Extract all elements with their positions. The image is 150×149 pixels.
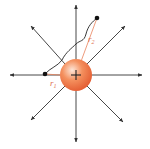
field-line-lower-right-arrow-icon bbox=[87, 86, 123, 122]
point-2-dot bbox=[95, 16, 100, 21]
point-1-dot bbox=[43, 72, 48, 77]
diagram: r1 r2 bbox=[0, 0, 150, 149]
label-r2: r2 bbox=[88, 34, 95, 45]
field-diagram: r1 r2 bbox=[0, 0, 150, 149]
field-line-lower-left-arrow-icon bbox=[31, 86, 65, 120]
field-line-upper-left-arrow-icon bbox=[31, 26, 65, 64]
label-r1: r1 bbox=[50, 78, 57, 89]
field-line-upper-right-arrow-icon bbox=[87, 26, 125, 64]
